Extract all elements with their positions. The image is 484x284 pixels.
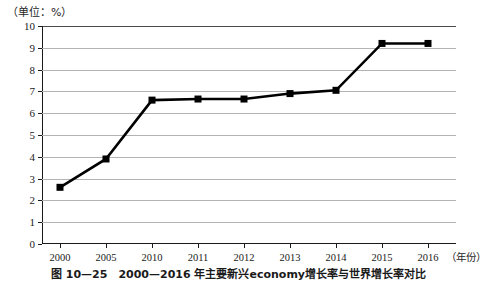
data-point-marker (103, 155, 110, 162)
x-tick-mark (60, 244, 61, 248)
y-tick-label: 8 (30, 64, 36, 75)
y-tick-label: 1 (30, 217, 36, 228)
series-line (60, 43, 428, 187)
data-point-marker (287, 90, 294, 97)
data-point-marker (57, 184, 64, 191)
y-tick-label: 10 (24, 21, 35, 32)
x-tick-mark (152, 244, 153, 248)
plot-area: 012345678910 200020052010201120122013201… (42, 26, 456, 244)
data-point-marker (379, 40, 386, 47)
x-tick-mark (336, 244, 337, 248)
y-tick-label: 3 (30, 173, 36, 184)
y-tick-label: 2 (30, 195, 36, 206)
x-tick-label: 2011 (188, 252, 209, 264)
x-tick-mark (382, 244, 383, 248)
x-tick-label: 2012 (234, 252, 255, 264)
figure-caption: 图 10—25 2000—2016 年主要新兴economy增长率与世界增长率对… (0, 268, 477, 282)
data-point-marker (195, 96, 202, 103)
x-tick-label: 2010 (142, 252, 163, 264)
series-markers-group (57, 40, 432, 191)
x-tick-label: 2015 (372, 252, 393, 264)
y-axis-unit-label: （单位：%） (7, 6, 72, 19)
x-tick-label: 2005 (96, 252, 117, 264)
y-tick-mark (38, 244, 42, 245)
data-series-layer (42, 26, 456, 244)
y-tick-label: 6 (30, 108, 36, 119)
x-axis-name-label: （年份） (446, 251, 484, 264)
x-tick-mark (244, 244, 245, 248)
y-tick-label: 0 (30, 239, 36, 250)
y-tick-label: 5 (30, 130, 36, 141)
y-tick-label: 9 (30, 42, 36, 53)
data-point-marker (333, 87, 340, 94)
x-tick-label: 2016 (418, 252, 439, 264)
data-point-marker (241, 96, 248, 103)
x-tick-label: 2014 (326, 252, 347, 264)
x-tick-mark (428, 244, 429, 248)
data-point-marker (149, 97, 156, 104)
x-tick-label: 2013 (280, 252, 301, 264)
x-tick-label: 2000 (50, 252, 71, 264)
y-tick-label: 4 (30, 151, 36, 162)
x-tick-mark (106, 244, 107, 248)
data-point-marker (425, 40, 432, 47)
x-tick-mark (290, 244, 291, 248)
y-tick-label: 7 (30, 86, 36, 97)
x-tick-mark (198, 244, 199, 248)
